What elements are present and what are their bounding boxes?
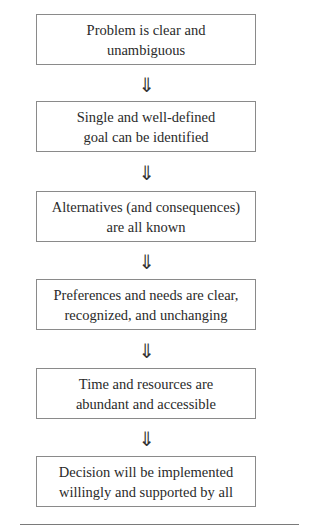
- double-down-arrow-icon: ⇓: [132, 73, 162, 97]
- step-text-line: recognized, and unchanging: [64, 305, 227, 325]
- step-box-alternatives-known: Alternatives (and consequences) are all …: [36, 191, 256, 242]
- step-text-line: abundant and accessible: [76, 394, 216, 414]
- step-box-goal-identified: Single and well-defined goal can be iden…: [36, 101, 256, 152]
- double-down-arrow-icon: ⇓: [132, 161, 162, 185]
- step-text-line: are all known: [107, 217, 186, 237]
- double-down-arrow-icon: ⇓: [132, 339, 162, 363]
- step-text-line: Time and resources are: [79, 374, 213, 394]
- step-text-line: Problem is clear and: [87, 20, 206, 40]
- step-text-line: goal can be identified: [83, 127, 208, 147]
- horizontal-rule: [20, 524, 299, 525]
- step-box-problem-clear: Problem is clear and unambiguous: [36, 14, 256, 65]
- double-down-arrow-icon: ⇓: [132, 250, 162, 274]
- step-text-line: Single and well-defined: [77, 107, 216, 127]
- step-box-preferences-clear: Preferences and needs are clear, recogni…: [36, 279, 256, 330]
- step-text-line: Alternatives (and consequences): [52, 197, 240, 217]
- step-text-line: willingly and supported by all: [59, 482, 233, 502]
- step-box-time-resources: Time and resources are abundant and acce…: [36, 368, 256, 419]
- step-text-line: Preferences and needs are clear,: [54, 285, 239, 305]
- double-down-arrow-icon: ⇓: [132, 427, 162, 451]
- step-text-line: Decision will be implemented: [59, 462, 233, 482]
- step-box-decision-implemented: Decision will be implemented willingly a…: [36, 456, 256, 507]
- step-text-line: unambiguous: [107, 40, 185, 60]
